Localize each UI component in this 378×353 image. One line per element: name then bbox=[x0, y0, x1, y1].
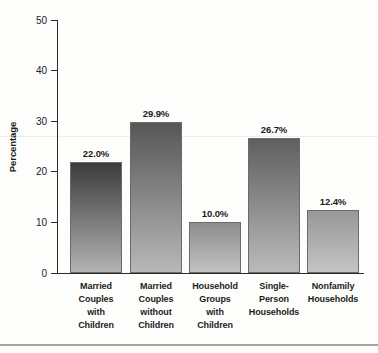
page-divider-rule bbox=[0, 344, 378, 346]
bar-value-label: 12.4% bbox=[297, 196, 369, 207]
bar-value-label: 10.0% bbox=[179, 208, 251, 219]
bar bbox=[70, 162, 122, 273]
y-tick-label: 50 bbox=[19, 15, 47, 26]
bar-value-label: 26.7% bbox=[238, 124, 310, 135]
y-axis-line bbox=[57, 20, 59, 274]
x-category-label: Married Couples with Children bbox=[66, 280, 126, 332]
bar bbox=[130, 122, 182, 273]
bar-value-label: 29.9% bbox=[120, 108, 192, 119]
y-tick-label: 30 bbox=[19, 116, 47, 127]
bar bbox=[248, 138, 300, 273]
y-tick-label: 10 bbox=[19, 217, 47, 228]
x-category-label: Household Groups with Children bbox=[185, 280, 245, 332]
bar-chart-figure: Percentage 01020304050 22.0%Married Coup… bbox=[0, 0, 378, 353]
y-tick-label: 40 bbox=[19, 65, 47, 76]
y-tick-label: 0 bbox=[19, 268, 47, 279]
x-category-label: Nonfamily Households bbox=[303, 280, 363, 306]
x-category-label: Single- Person Households bbox=[244, 280, 304, 319]
y-tick-label: 20 bbox=[19, 166, 47, 177]
x-category-label: Married Couples without Children bbox=[126, 280, 186, 332]
bar bbox=[189, 222, 241, 273]
bar bbox=[307, 210, 359, 273]
bar-value-label: 22.0% bbox=[60, 148, 132, 159]
